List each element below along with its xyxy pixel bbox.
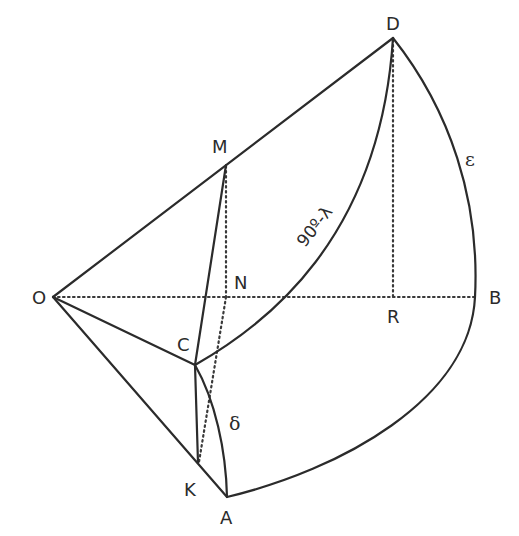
line-M-C [195, 165, 226, 365]
label-epsilon: ε [465, 148, 475, 170]
label-N: N [234, 272, 247, 293]
line-O-C [53, 297, 195, 365]
label-R: R [387, 306, 400, 327]
line-O-D [53, 38, 393, 297]
label-M: M [212, 136, 228, 157]
line-C-K [195, 365, 198, 463]
label-D: D [386, 13, 400, 34]
spherical-diagram: O D M N R B C K A ε δ 90º-λ [0, 0, 519, 536]
label-delta: δ [229, 412, 240, 434]
arc-D-B-A [227, 38, 476, 497]
label-O: O [32, 287, 46, 308]
arc-C-D [195, 38, 393, 365]
label-B: B [489, 287, 501, 308]
label-K: K [184, 479, 197, 500]
label-A: A [220, 507, 233, 528]
label-C: C [177, 334, 190, 355]
